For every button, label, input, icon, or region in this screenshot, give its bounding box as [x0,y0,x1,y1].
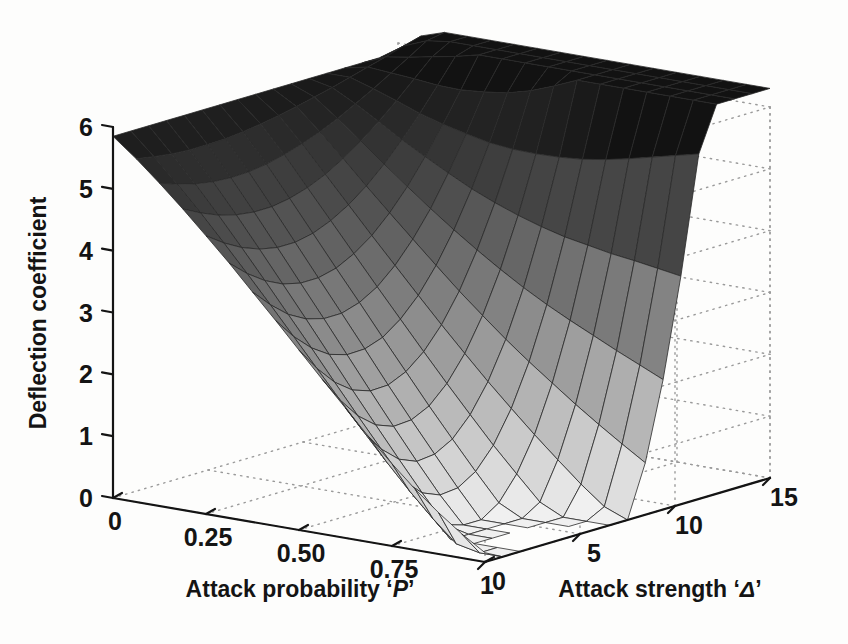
axis-titles: Attack probability ‘P’ Attack strength ‘… [0,0,848,644]
y-axis-title: Attack strength ‘Δ’ [558,576,761,602]
figure-canvas: 012345600.250.500.751051015 Attack proba… [0,0,848,644]
x-axis-title: Attack probability ‘P’ [186,576,415,602]
z-axis-title: Deflection coefficient [25,196,51,429]
